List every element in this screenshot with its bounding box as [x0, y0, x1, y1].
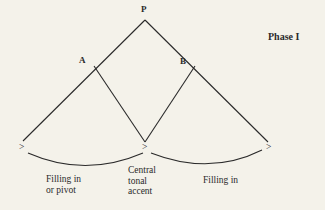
node-p-label: P [141, 4, 147, 15]
center-caption: Central tonal accent [128, 165, 156, 197]
left-span-arc [28, 153, 143, 166]
node-a-label: A [79, 55, 86, 66]
accent-mark-center: > [142, 142, 147, 153]
edge-center-b [145, 66, 195, 142]
right-span-arc [151, 150, 262, 164]
accent-mark-left: > [19, 142, 24, 153]
edge-p-right [145, 20, 268, 142]
edge-a-center [94, 66, 145, 142]
center-caption-line-1: Central [128, 165, 156, 176]
left-span-caption-line-1: Filling in [46, 174, 81, 185]
right-span-caption-line-1: Filling in [203, 175, 238, 186]
edge-p-left [23, 20, 145, 141]
phase-label: Phase I [268, 32, 299, 43]
center-caption-line-3: accent [128, 186, 156, 197]
left-span-caption-line-2: or pivot [46, 185, 81, 196]
left-span-caption: Filling in or pivot [46, 174, 81, 195]
node-b-label: B [180, 56, 186, 67]
center-caption-line-2: tonal [128, 176, 156, 187]
accent-mark-right: > [266, 142, 271, 153]
right-span-caption: Filling in [203, 175, 238, 186]
